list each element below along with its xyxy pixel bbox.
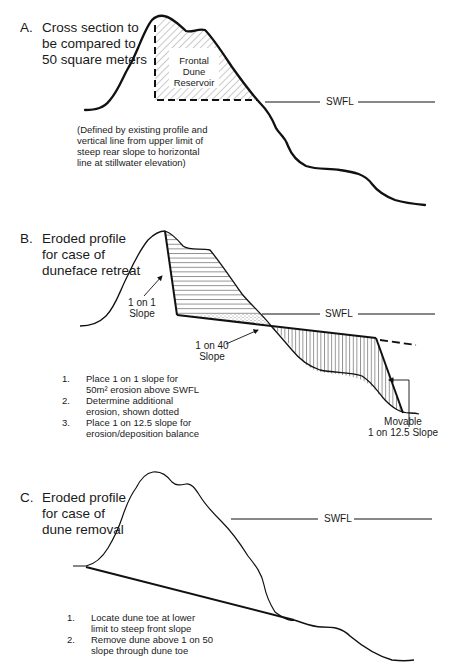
panel-b-title-line: for case of: [42, 247, 140, 263]
step-item: 3. Place 1 on 12.5 slope for erosion/dep…: [62, 417, 199, 439]
movable-slope-label: Movable 1 on 12.5 Slope: [358, 416, 448, 438]
erosion-area-above-swfl: [165, 231, 261, 314]
step-number: 2.: [67, 634, 75, 645]
slope-extension-dashed: [380, 340, 416, 345]
swfl-label-b: SWFL: [325, 308, 353, 319]
step-item: 2. Remove dune above 1 on 50 slope throu…: [67, 634, 213, 656]
step-line: erosion/deposition balance: [86, 428, 199, 439]
panel-c-steps: 1. Locate dune toe at lower limit to ste…: [67, 612, 213, 656]
note-line: (Defined by existing profile and: [77, 124, 207, 135]
label-line: 1 on 40: [190, 340, 234, 351]
profile-c-offshore: [294, 620, 414, 661]
step-number: 1.: [67, 612, 75, 623]
note-line: steep rear slope to horizontal: [77, 146, 207, 157]
reservoir-label-line: Reservoir: [165, 77, 223, 88]
panel-b-title-line: duneface retreat: [42, 263, 140, 279]
panel-a-title-line: 50 square meters: [42, 52, 147, 68]
step-line: Place 1 on 1 slope for: [86, 373, 199, 384]
step-line: Remove dune above 1 on 50: [91, 634, 213, 645]
panel-b-steps: 1. Place 1 on 1 slope for 50m² erosion a…: [62, 373, 199, 439]
step-line: Locate dune toe at lower: [91, 612, 213, 623]
note-line: vertical line from upper limit of: [77, 135, 207, 146]
panel-a-title-line: Cross section to: [42, 20, 147, 36]
label-line: Slope: [190, 351, 234, 362]
frontal-dune-reservoir-label: Frontal Dune Reservoir: [165, 55, 223, 88]
panel-b-title-line: Eroded profile: [42, 231, 140, 247]
panel-c-title-line: dune removal: [42, 522, 126, 538]
step-line: slope through dune toe: [91, 645, 213, 656]
slope-1on1-label: 1 on 1 Slope: [120, 297, 164, 319]
step-line: Determine additional: [86, 395, 199, 406]
diagram-canvas: [0, 0, 449, 670]
slope-1on40-label: 1 on 40 Slope: [190, 340, 234, 362]
swfl-label-c: SWFL: [324, 513, 352, 524]
label-line: 1 on 12.5 Slope: [358, 427, 448, 438]
step-number: 2.: [62, 395, 70, 406]
step-item: 1. Locate dune toe at lower limit to ste…: [67, 612, 213, 634]
step-line: erosion, shown dotted: [86, 406, 199, 417]
step-number: 1.: [62, 373, 70, 384]
panel-c-title-line: Eroded profile: [42, 490, 126, 506]
step-line: Place 1 on 12.5 slope for: [86, 417, 199, 428]
reservoir-label-line: Dune: [165, 66, 223, 77]
label-line: Movable: [358, 416, 448, 427]
panel-a-letter: A.: [20, 20, 33, 36]
label-line: 1 on 1: [120, 297, 164, 308]
label-line: Slope: [120, 308, 164, 319]
step-item: 2. Determine additional erosion, shown d…: [62, 395, 199, 417]
reservoir-label-line: Frontal: [165, 55, 223, 66]
note-line: line at stillwater elevation): [77, 157, 207, 168]
panel-b-letter: B.: [20, 231, 33, 247]
step-line: limit to steep front slope: [91, 623, 213, 634]
panel-a-title-line: be compared to: [42, 36, 147, 52]
arrow-1on1: [144, 276, 162, 296]
step-line: 50m² erosion above SWFL: [86, 384, 199, 395]
step-number: 3.: [62, 417, 70, 428]
step-item: 1. Place 1 on 1 slope for 50m² erosion a…: [62, 373, 199, 395]
panel-a-note: (Defined by existing profile and vertica…: [77, 124, 207, 168]
panel-c-letter: C.: [20, 490, 34, 506]
panel-c-title-line: for case of: [42, 506, 126, 522]
swfl-label-a: SWFL: [326, 96, 354, 107]
